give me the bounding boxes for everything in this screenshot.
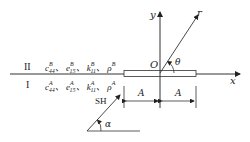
region-I-label: I <box>26 80 29 90</box>
theta-label: θ <box>175 58 180 67</box>
region-II-params: cB44、 eB15、 kB11、 ρB <box>45 61 115 74</box>
half-length-right: A <box>175 89 182 98</box>
region-I-params: cA44、 eA15、 kA11、 ρA <box>45 80 115 93</box>
diagram-lines <box>0 0 250 142</box>
half-length-left: A <box>138 89 145 98</box>
r-label: r <box>197 8 202 18</box>
alpha-arc <box>98 120 102 131</box>
region-II-label: II <box>24 62 31 72</box>
sh-wave-label: SH <box>95 97 107 106</box>
origin-label: O <box>150 60 158 70</box>
alpha-label: α <box>105 120 111 129</box>
diagram: II I cB44、 eB15、 kB11、 ρB cA44、 eA15、 kA… <box>0 0 250 142</box>
x-axis-label: x <box>230 76 236 86</box>
y-axis-label: y <box>150 10 156 20</box>
